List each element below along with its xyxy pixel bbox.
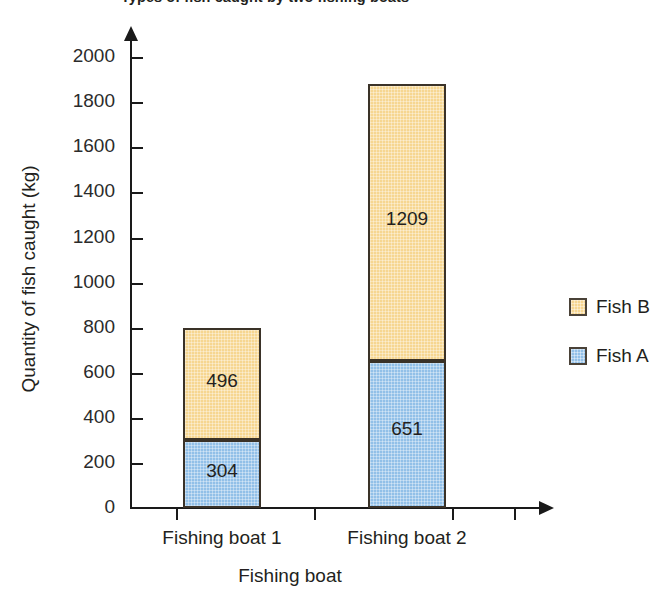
y-tick-1600 [132,147,143,149]
y-tick-800 [132,328,143,330]
legend-swatch-fish-b [569,298,587,316]
legend-swatch-fish-a [569,347,587,365]
y-tick-1200 [132,238,143,240]
legend-label-fish-b: Fish B [596,296,650,318]
legend-label-fish-a: Fish A [596,345,649,367]
y-tick-400 [132,418,143,420]
y-tick-label-1000: 1000 [55,271,115,293]
y-tick-1000 [132,283,143,285]
bar-value-boat2-fish-a: 651 [370,418,444,440]
y-tick-label-1800: 1800 [55,90,115,112]
y-axis-arrow-icon [124,26,138,41]
x-category-label-boat1: Fishing boat 1 [122,527,322,549]
x-tick-2 [452,509,454,520]
chart-legend: Fish B Fish A [569,296,650,394]
y-tick-label-0: 0 [55,496,115,518]
y-tick-600 [132,373,143,375]
y-tick-label-1200: 1200 [55,226,115,248]
y-tick-200 [132,463,143,465]
bar-boat2-fish-a[interactable]: 651 [368,361,446,508]
x-tick-1 [314,509,316,520]
y-tick-label-400: 400 [55,406,115,428]
bar-value-boat1-fish-b: 496 [185,370,259,392]
y-tick-label-200: 200 [55,451,115,473]
bar-boat2-fish-b[interactable]: 1209 [368,84,446,361]
y-tick-label-2000: 2000 [55,45,115,67]
y-axis-title: Quantity of fish caught (kg) [18,149,40,409]
y-tick-label-1600: 1600 [55,135,115,157]
y-tick-label-800: 800 [55,316,115,338]
bar-boat1-fish-a[interactable]: 304 [183,440,261,508]
bar-value-boat2-fish-b: 1209 [370,208,444,230]
x-axis-title: Fishing boat [130,565,450,587]
chart-title: Types of fish caught by two fishing boat… [0,0,530,5]
y-tick-1800 [132,102,143,104]
legend-item-fish-a[interactable]: Fish A [569,345,650,367]
bar-boat1-fish-b[interactable]: 496 [183,328,261,440]
legend-item-fish-b[interactable]: Fish B [569,296,650,318]
x-tick-0 [176,509,178,520]
x-tick-3 [514,509,516,520]
y-tick-1400 [132,192,143,194]
x-category-label-boat2: Fishing boat 2 [307,527,507,549]
bar-value-boat1-fish-a: 304 [185,460,259,482]
y-tick-label-1400: 1400 [55,180,115,202]
y-axis-line [130,38,132,509]
y-tick-2000 [132,57,143,59]
chart-page: Types of fish caught by two fishing boat… [0,0,669,601]
y-tick-label-600: 600 [55,361,115,383]
x-axis-arrow-icon [539,501,554,515]
